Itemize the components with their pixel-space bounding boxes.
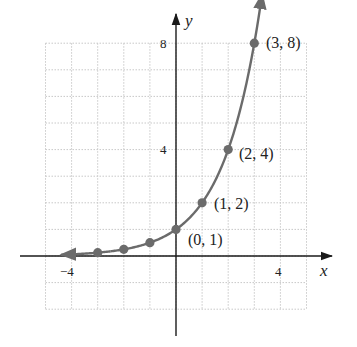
curve-left-arrow <box>61 251 111 254</box>
data-point <box>119 245 128 254</box>
y-tick-label-4: 4 <box>160 142 167 157</box>
point-label-0-1: (0, 1) <box>188 231 223 249</box>
point-label-1-2: (1, 2) <box>214 195 249 213</box>
y-axis-label: y <box>183 11 193 30</box>
data-point <box>224 145 233 154</box>
point-label-2-4: (2, 4) <box>239 145 274 163</box>
point-label-3-8: (3, 8) <box>266 34 301 52</box>
x-tick-label-4: 4 <box>275 264 282 279</box>
data-point <box>198 198 207 207</box>
data-point <box>145 238 154 247</box>
x-axis-label: x <box>319 261 328 280</box>
x-tick-label-neg4: −4 <box>60 264 74 279</box>
exponential-curve <box>111 0 262 251</box>
data-point <box>171 225 180 234</box>
y-tick-label-8: 8 <box>160 36 167 51</box>
data-point <box>250 39 259 48</box>
exponential-graph: x y −4 4 4 8 (0, 1) (1, 2) (2, 4) (3, 8) <box>0 0 357 347</box>
data-point <box>93 248 102 257</box>
